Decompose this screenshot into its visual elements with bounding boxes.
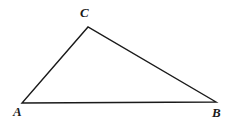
- triangle-figure: A B C: [0, 0, 233, 127]
- vertex-label-b: B: [212, 106, 221, 119]
- triangle-drawing: [0, 0, 233, 127]
- vertex-label-c: C: [80, 6, 89, 19]
- triangle-outline: [22, 27, 216, 103]
- vertex-label-a: A: [13, 105, 22, 118]
